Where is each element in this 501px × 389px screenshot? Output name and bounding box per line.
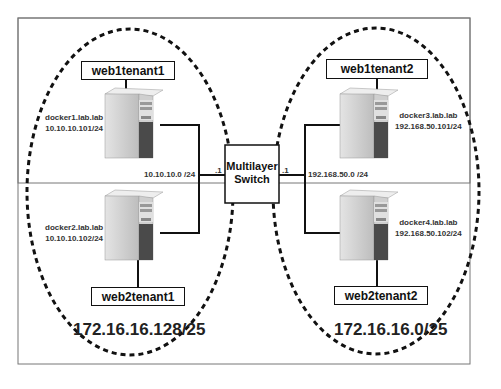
right-subnet-label: 172.16.16.0/25	[334, 320, 447, 340]
host-ip: 192.168.50.101/24	[395, 121, 462, 132]
multilayer-switch: Multilayer Switch	[225, 160, 279, 186]
container-label: web2tenant2	[345, 289, 418, 303]
host-ip: 10.10.10.102/24	[45, 233, 103, 244]
hostname: docker4.lab.lab	[395, 217, 462, 228]
switch-left-port: .1	[215, 166, 222, 175]
container-label: web1tenant1	[92, 64, 165, 78]
left-subnet-label: 172.16.16.128/25	[73, 320, 205, 340]
left-network-label: 10.10.10.0 /24	[144, 170, 195, 179]
host-docker3: docker3.lab.lab 192.168.50.101/24	[395, 110, 462, 132]
server-docker3-icon	[340, 88, 398, 158]
switch-label-line1: Multilayer	[225, 160, 279, 173]
container-web2tenant1: web2tenant1	[91, 287, 185, 306]
server-docker2-icon	[105, 190, 163, 260]
host-ip: 10.10.10.101/24	[45, 123, 103, 134]
server-docker4-icon	[340, 190, 398, 260]
container-web2tenant2: web2tenant2	[334, 286, 428, 305]
container-web1tenant2: web1tenant2	[326, 59, 428, 79]
hostname: docker3.lab.lab	[395, 110, 462, 121]
host-docker2: docker2.lab.lab 10.10.10.102/24	[45, 222, 103, 244]
host-docker4: docker4.lab.lab 192.168.50.102/24	[395, 217, 462, 239]
server-docker1-icon	[105, 88, 163, 158]
switch-label-line2: Switch	[225, 173, 279, 186]
hostname: docker1.lab.lab	[45, 112, 103, 123]
switch-right-port: .1	[282, 166, 289, 175]
host-docker1: docker1.lab.lab 10.10.10.101/24	[45, 112, 103, 134]
container-web1tenant1: web1tenant1	[81, 61, 175, 80]
right-network-label: 192.168.50.0 /24	[308, 170, 368, 179]
host-ip: 192.168.50.102/24	[395, 228, 462, 239]
container-label: web2tenant1	[102, 290, 175, 304]
hostname: docker2.lab.lab	[45, 222, 103, 233]
container-label: web1tenant2	[341, 62, 414, 76]
